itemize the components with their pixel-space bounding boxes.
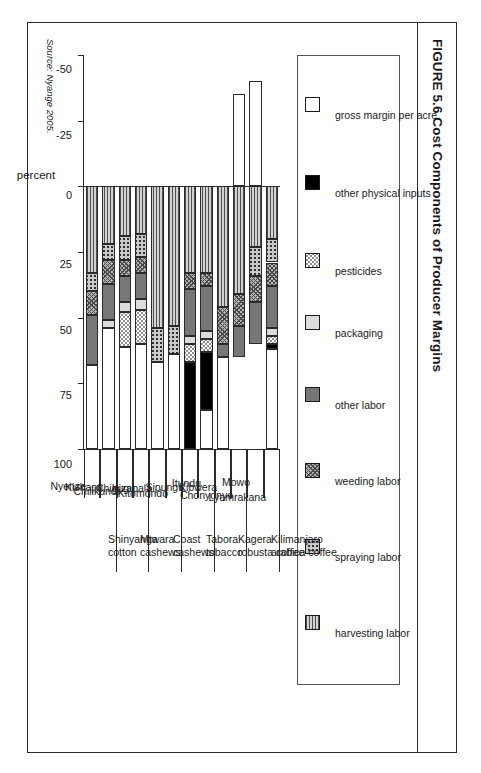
x-axis: percent 1007550250-25-50: [84, 55, 280, 449]
group-crop-label: cotton: [108, 546, 137, 558]
legend-item-harv: harvesting labor: [305, 584, 320, 660]
category-cell: Chonyonyo: [231, 450, 247, 498]
group-cell: Shinyangacotton: [84, 498, 117, 572]
axis-tick-label: -25: [56, 129, 72, 141]
legend-swatch-olab: [305, 387, 320, 402]
legend-label-gross: gross margin per acre: [335, 109, 437, 121]
axis-tick: [78, 383, 84, 384]
title-bar: FIGURE 5.6 Cost Components of Producer M…: [417, 23, 456, 752]
page-title: FIGURE 5.6 Cost Components of Producer M…: [430, 39, 445, 372]
legend-swatch-gross: [305, 97, 320, 112]
legend-item-olab: other labor: [305, 356, 320, 432]
category-cell: Sipungu: [182, 450, 198, 498]
legend-swatch-pack: [305, 315, 320, 330]
group-crop-label: robusta coffee: [238, 546, 304, 558]
legend-item-weed: weeding labor: [305, 432, 320, 508]
axis-tick: [78, 186, 84, 187]
category-cell: Chilikundi: [117, 450, 133, 498]
source-note: Source: Nyange 2005.: [45, 39, 56, 134]
legend-item-gross: gross margin per acre: [305, 66, 320, 142]
axis-tick: [78, 252, 84, 253]
axis-tick-label: 50: [60, 324, 72, 336]
category-cell: Nyenze: [84, 450, 100, 498]
category-labels: LyamrakanaMowoChonyonyoKibweraItunduSipu…: [84, 449, 280, 684]
axis-tick-label: -50: [56, 63, 72, 75]
legend-item-opi: other physical inputs: [305, 144, 320, 220]
figure-frame: FIGURE 5.6 Cost Components of Producer M…: [27, 22, 457, 753]
legend-swatch-harv: [305, 615, 320, 630]
zero-line: [84, 186, 280, 187]
figure-inner: FIGURE 5.6 Cost Components of Producer M…: [28, 23, 456, 752]
legend-label-pest: pesticides: [335, 265, 382, 277]
category-cell: Chigugu: [133, 450, 149, 498]
category-cell: Itundu: [198, 450, 214, 498]
legend-swatch-pest: [305, 253, 320, 268]
legend-label-harv: harvesting labor: [335, 627, 410, 639]
group-region-label: Tabora: [206, 533, 238, 545]
category-cell: Kizapala: [149, 450, 165, 498]
axis-tick-label: 0: [66, 189, 72, 201]
axis-tick-label: 75: [60, 389, 72, 401]
axis-title: percent: [17, 170, 55, 182]
chart-legend: gross margin per acreother physical inpu…: [297, 55, 400, 685]
category-cell: Kishapu: [100, 450, 116, 498]
legend-label-opi: other physical inputs: [335, 187, 431, 199]
axis-tick: [78, 55, 84, 56]
axis-tick-label: 25: [60, 258, 72, 270]
category-cell: Mowo: [247, 450, 263, 498]
axis-tick: [78, 318, 84, 319]
category-label: Nyenze: [51, 480, 87, 492]
legend-label-weed: weeding labor: [335, 475, 400, 487]
group-region-label: Coast: [173, 533, 200, 545]
rotated-figure-content: FIGURE 5.6 Cost Components of Producer M…: [28, 23, 456, 752]
legend-swatch-opi: [305, 175, 320, 190]
plot-area: percent 1007550250-25-50 LyamrakanaMowoC…: [84, 55, 280, 683]
category-cell: Kibwera: [215, 450, 231, 498]
group-region-label: Shinyanga: [108, 533, 158, 545]
legend-label-spray: spraying labor: [335, 551, 401, 563]
axis-tick-label: 100: [54, 458, 72, 470]
axis-tick: [78, 121, 84, 122]
legend-swatch-weed: [305, 463, 320, 478]
legend-label-pack: packaging: [335, 327, 383, 339]
figure-page: FIGURE 5.6 Cost Components of Producer M…: [0, 0, 481, 773]
group-crop-label: cashews: [140, 546, 181, 558]
legend-item-pack: packaging: [305, 284, 320, 360]
legend-label-olab: other labor: [335, 399, 385, 411]
category-cell: Kitomondo: [166, 450, 182, 498]
category-cell: Lyamrakana: [264, 450, 280, 498]
group-region-label: Kagera: [238, 533, 272, 545]
group-region-label: Kilimanjaro: [271, 533, 323, 545]
